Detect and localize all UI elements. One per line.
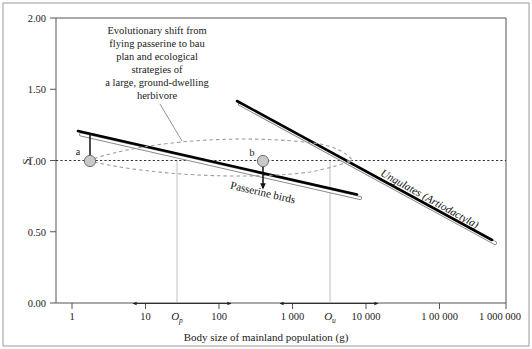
x-tick-label-100: 100 [211, 311, 227, 322]
x-axis-title: Body size of mainland population (g) [184, 331, 349, 344]
annotation-line-3: plan and ecological [116, 51, 198, 62]
annotation-line-2: flying passerine to bau [109, 38, 205, 49]
annotation-line-6: herbivore [137, 90, 178, 101]
ou-main: O [324, 310, 332, 322]
x-tick-label-1000000: 1 000 000 [479, 311, 521, 322]
annotation-line-4: strategies of [131, 64, 183, 75]
chart-canvas: 2.00 1.50 1.00 0.50 0.00 Si 1 10 100 1 0… [0, 0, 532, 349]
marker-b-point [257, 155, 268, 166]
annotation-line-5: a large, ground-dwelling [105, 77, 209, 88]
y-axis-title-sub: i [26, 156, 35, 158]
y-tick-label-0.50: 0.50 [28, 227, 46, 238]
x-tick-label-1: 1 [69, 311, 74, 322]
x-tick-label-1000: 1 000 [281, 311, 305, 322]
marker-a-point [84, 155, 95, 166]
x-tick-label-10: 10 [140, 311, 151, 322]
y-tick-label-2.00: 2.00 [28, 13, 46, 24]
marker-b-label: b [250, 147, 255, 158]
y-tick-label-0.00: 0.00 [28, 298, 46, 309]
marker-a-label: a [76, 146, 81, 157]
op-main: O [171, 310, 179, 322]
annotation-line-1: Evolutionary shift from [107, 25, 206, 36]
x-tick-label-100000: 1 00 000 [421, 311, 458, 322]
op-sub: p [178, 316, 183, 325]
x-tick-label-10000: 10 000 [352, 311, 381, 322]
y-tick-label-1.50: 1.50 [28, 84, 46, 95]
chart-figure: 2.00 1.50 1.00 0.50 0.00 Si 1 10 100 1 0… [0, 0, 532, 349]
ou-sub: u [332, 316, 336, 325]
